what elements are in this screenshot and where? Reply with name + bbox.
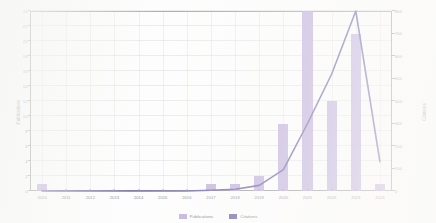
- legend-swatch-publications: [179, 214, 187, 219]
- y-left-tickmark-2: [28, 175, 31, 176]
- publications-citations-chart: 024681012141618202224 010020030040050060…: [0, 0, 436, 223]
- x-tick-2019: 2019: [255, 195, 264, 201]
- legend-item-citations[interactable]: Citations: [229, 214, 257, 219]
- x-tickmark-2021: [307, 189, 308, 192]
- y-right-tick-300: 300: [395, 121, 402, 126]
- y-right-tick-700: 700: [395, 31, 402, 36]
- y-right-tickmark-100: [392, 168, 395, 169]
- y-axis-right-title: Citations: [423, 103, 428, 121]
- legend-item-publications[interactable]: Publications: [179, 214, 214, 219]
- y-right-tick-200: 200: [395, 144, 402, 149]
- y-left-tickmark-10: [28, 115, 31, 116]
- y-left-tickmark-22: [28, 25, 31, 26]
- y-right-tickmark-500: [392, 78, 395, 79]
- x-tickmark-2018: [235, 189, 236, 192]
- x-tick-2014: 2014: [134, 195, 143, 201]
- y-left-tickmark-14: [28, 85, 31, 86]
- x-tickmark-2014: [138, 189, 139, 192]
- y-left-tickmark-18: [28, 55, 31, 56]
- y-left-tickmark-16: [28, 70, 31, 71]
- x-tick-2010: 2010: [37, 195, 46, 201]
- y-right-tickmark-600: [392, 55, 395, 56]
- y-left-tickmark-0: [28, 190, 31, 191]
- x-tickmark-2011: [66, 189, 67, 192]
- x-tick-2018: 2018: [230, 195, 239, 201]
- y-right-tick-800: 800: [395, 9, 402, 14]
- y-left-tickmark-24: [28, 10, 31, 11]
- plot-area: 024681012141618202224 010020030040050060…: [30, 11, 392, 191]
- x-tick-2017: 2017: [206, 195, 215, 201]
- legend-label-publications: Publications: [190, 214, 214, 219]
- y-right-tick-500: 500: [395, 76, 402, 81]
- x-tickmark-2022: [331, 189, 332, 192]
- y-left-tickmark-20: [28, 40, 31, 41]
- legend-label-citations: Citations: [240, 214, 257, 219]
- y-left-tickmark-12: [28, 100, 31, 101]
- y-right-tick-0: 0: [395, 189, 397, 194]
- x-tickmark-2013: [114, 189, 115, 192]
- y-left-tickmark-6: [28, 145, 31, 146]
- chart-legend: PublicationsCitations: [0, 214, 436, 219]
- x-tickmark-2019: [259, 189, 260, 192]
- x-tick-2024: 2024: [375, 195, 384, 201]
- x-tickmark-2024: [379, 189, 380, 192]
- y-left-tickmark-8: [28, 130, 31, 131]
- y-right-tickmark-700: [392, 33, 395, 34]
- x-tick-2020: 2020: [279, 195, 288, 201]
- y-right-tickmark-300: [392, 123, 395, 124]
- x-tickmark-2012: [90, 189, 91, 192]
- x-tick-2015: 2015: [158, 195, 167, 201]
- x-tickmark-2016: [186, 189, 187, 192]
- x-tick-2021: 2021: [303, 195, 312, 201]
- x-tickmark-2015: [162, 189, 163, 192]
- x-tick-2016: 2016: [182, 195, 191, 201]
- y-right-tick-600: 600: [395, 54, 402, 59]
- y-right-tick-100: 100: [395, 166, 402, 171]
- y-right-tickmark-200: [392, 145, 395, 146]
- x-tick-2022: 2022: [327, 195, 336, 201]
- y-right-tickmark-400: [392, 100, 395, 101]
- x-tickmark-2017: [211, 189, 212, 192]
- y-left-tickmark-4: [28, 160, 31, 161]
- x-tick-2013: 2013: [110, 195, 119, 201]
- y-right-tick-400: 400: [395, 99, 402, 104]
- x-tickmark-2023: [355, 189, 356, 192]
- x-tick-2012: 2012: [86, 195, 95, 201]
- y-axis-left-title: Publications: [16, 99, 21, 124]
- x-tick-2023: 2023: [351, 195, 360, 201]
- citations-line: [30, 11, 392, 191]
- x-tickmark-2020: [283, 189, 284, 192]
- legend-swatch-citations: [229, 214, 237, 219]
- y-right-tickmark-800: [392, 10, 395, 11]
- x-tick-2011: 2011: [62, 195, 71, 201]
- y-right-tickmark-0: [392, 190, 395, 191]
- x-tickmark-2010: [42, 189, 43, 192]
